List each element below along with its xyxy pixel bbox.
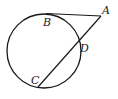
geometry-figure: A B C D [0, 0, 118, 99]
point-label-a: A [101, 4, 110, 17]
point-label-c: C [31, 74, 40, 87]
point-label-b: B [42, 16, 51, 29]
point-label-d: D [79, 42, 89, 55]
diagram-canvas: A B C D [0, 0, 118, 99]
